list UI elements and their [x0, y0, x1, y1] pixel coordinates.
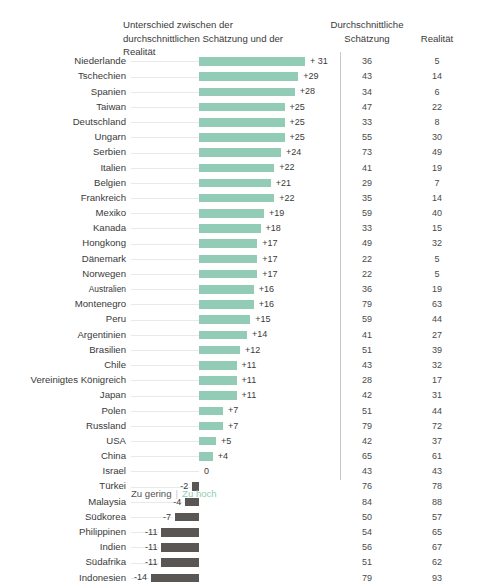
- reality-value: 88: [404, 496, 470, 508]
- reality-value: 57: [404, 511, 470, 523]
- row-country-label: Montenegro: [0, 298, 126, 310]
- reality-value: 62: [404, 556, 470, 568]
- reality-value: 6: [404, 86, 470, 98]
- estimate-value: 42: [330, 435, 404, 447]
- estimate-value: 41: [330, 329, 404, 341]
- leader-line: [131, 304, 199, 305]
- bar-value-label: +4: [218, 450, 228, 462]
- row-country-label: Serbien: [0, 146, 126, 158]
- value-bar: [199, 270, 257, 279]
- value-bar: [199, 118, 285, 127]
- row-country-label: Italien: [0, 162, 126, 174]
- bar-value-label: +25: [290, 131, 305, 143]
- reality-value: 44: [404, 405, 470, 417]
- value-bar: [199, 57, 305, 66]
- bar-value-label: +14: [252, 328, 267, 340]
- bar-value-label: +17: [262, 237, 277, 249]
- reality-value: 22: [404, 101, 470, 113]
- row-country-label: Chile: [0, 359, 126, 371]
- bar-value-label: +18: [266, 222, 281, 234]
- row-country-label: Vereinigtes Königreich: [0, 374, 126, 386]
- row-country-label: Niederlande: [0, 55, 126, 67]
- reality-value: 93: [404, 572, 470, 584]
- leader-line: [131, 213, 199, 214]
- row-country-label: USA: [0, 435, 126, 447]
- leader-line: [131, 61, 199, 62]
- value-bar: [199, 407, 223, 416]
- estimate-value: 73: [330, 146, 404, 158]
- legend-too-high: Zu hoch: [182, 488, 217, 499]
- table-row: Peru+155944: [0, 312, 477, 327]
- estimate-value: 79: [330, 420, 404, 432]
- chart-rows: Niederlande+ 31365Tschechien+294314Spani…: [0, 54, 477, 586]
- leader-line: [131, 153, 199, 154]
- row-country-label: Indien: [0, 541, 126, 553]
- reality-value: 19: [404, 162, 470, 174]
- leader-line: [131, 335, 199, 336]
- row-country-label: Kanada: [0, 222, 126, 234]
- leader-line: [131, 320, 199, 321]
- estimate-value: 29: [330, 177, 404, 189]
- leader-line: [131, 471, 199, 472]
- leader-line: [131, 289, 199, 290]
- row-country-label: Australien: [0, 283, 126, 295]
- reality-value: 5: [404, 253, 470, 265]
- reality-value: 40: [404, 207, 470, 219]
- row-country-label: Ungarn: [0, 131, 126, 143]
- value-bar: [199, 255, 257, 264]
- column-header-difference: Unterschied zwischen der durchschnittlic…: [123, 18, 308, 59]
- bar-value-label: +19: [269, 207, 284, 219]
- estimate-value: 41: [330, 162, 404, 174]
- table-row: Chile+114332: [0, 358, 477, 373]
- reality-value: 37: [404, 435, 470, 447]
- reality-value: 44: [404, 313, 470, 325]
- value-bar: [199, 315, 250, 324]
- leader-line: [131, 244, 199, 245]
- table-row: Tschechien+294314: [0, 69, 477, 84]
- value-bar: [199, 179, 271, 188]
- reality-value: 39: [404, 344, 470, 356]
- table-row: Belgien+21297: [0, 176, 477, 191]
- leader-line: [131, 228, 199, 229]
- table-row: Niederlande+ 31365: [0, 54, 477, 69]
- row-country-label: Mexiko: [0, 207, 126, 219]
- reality-value: 32: [404, 359, 470, 371]
- table-row: Kanada+183315: [0, 221, 477, 236]
- table-row: Deutschland+25338: [0, 115, 477, 130]
- value-bar: [199, 133, 285, 142]
- table-row: Brasilien+125139: [0, 343, 477, 358]
- leader-line: [131, 396, 199, 397]
- reality-value: 7: [404, 177, 470, 189]
- bar-value-label: + 31: [310, 55, 328, 67]
- bar-value-label: +28: [300, 85, 315, 97]
- legend-too-low: Zu gering: [131, 488, 172, 499]
- table-row: Norwegen+17225: [0, 267, 477, 282]
- reality-value: 14: [404, 70, 470, 82]
- value-bar: [199, 239, 257, 248]
- table-row: Polen+75144: [0, 403, 477, 418]
- estimate-value: 43: [330, 359, 404, 371]
- value-bar: [199, 194, 274, 203]
- reality-value: 31: [404, 389, 470, 401]
- table-row: Italien+224119: [0, 160, 477, 175]
- reality-value: 63: [404, 298, 470, 310]
- reality-value: 17: [404, 374, 470, 386]
- estimate-value: 43: [330, 70, 404, 82]
- value-bar: [151, 574, 199, 583]
- table-row: Hongkong+174932: [0, 236, 477, 251]
- bar-value-label: +7: [228, 420, 238, 432]
- estimate-value: 51: [330, 344, 404, 356]
- row-country-label: Tschechien: [0, 70, 126, 82]
- bar-value-label: +17: [262, 268, 277, 280]
- legend-separator: |: [172, 488, 183, 499]
- leader-line: [131, 259, 199, 260]
- bar-value-label: +5: [221, 435, 231, 447]
- value-bar: [199, 422, 223, 431]
- reality-value: 43: [404, 465, 470, 477]
- bar-value-label: +15: [255, 313, 270, 325]
- table-row: Taiwan+254722: [0, 100, 477, 115]
- leader-line: [131, 107, 199, 108]
- row-country-label: Südkorea: [0, 511, 126, 523]
- reality-value: 19: [404, 283, 470, 295]
- table-row: Japan+114231: [0, 388, 477, 403]
